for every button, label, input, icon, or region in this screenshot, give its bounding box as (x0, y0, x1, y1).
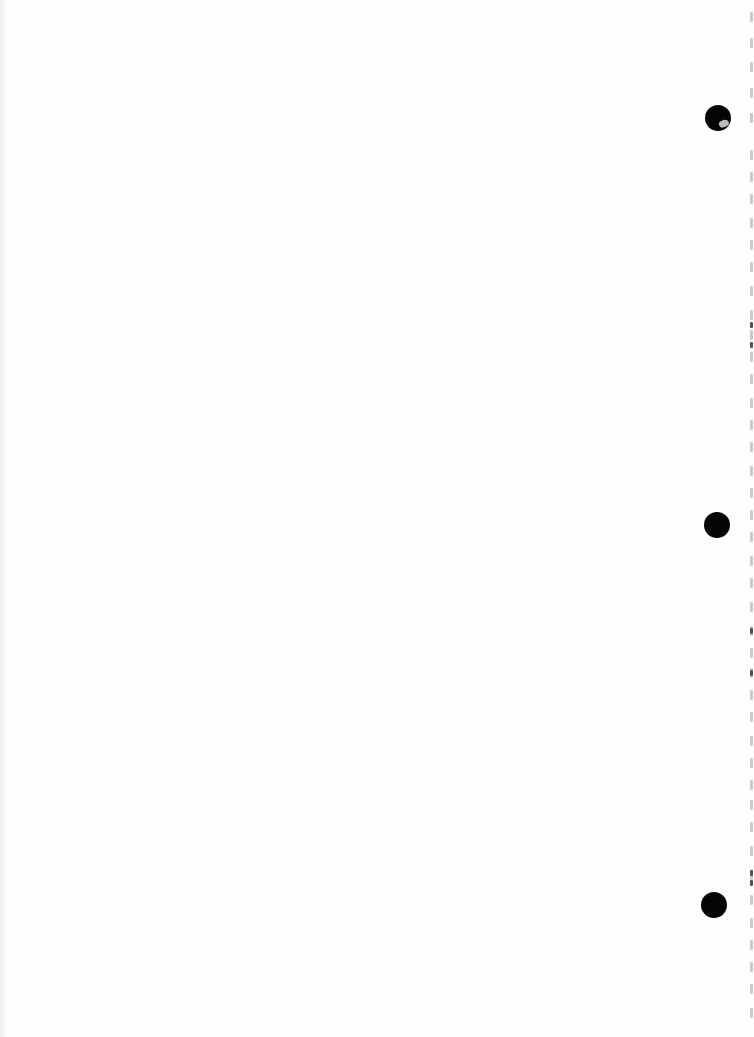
edge-mark (750, 984, 753, 994)
punch-hole (701, 892, 727, 918)
punch-hole (705, 105, 731, 131)
edge-mark (750, 556, 753, 566)
edge-mark-dark (750, 342, 753, 348)
edge-mark (750, 38, 753, 48)
edge-mark (750, 532, 753, 542)
edge-mark (750, 602, 753, 612)
edge-mark (750, 466, 753, 476)
edge-mark (750, 690, 753, 700)
edge-mark (750, 846, 753, 856)
edge-mark (750, 1008, 753, 1018)
edge-mark (750, 940, 753, 950)
edge-mark (750, 962, 753, 972)
edge-mark (750, 758, 753, 768)
edge-mark (750, 374, 753, 384)
edge-mark (750, 918, 753, 928)
edge-mark (750, 712, 753, 722)
edge-mark (750, 88, 753, 98)
right-edge-bleed-marks (746, 0, 754, 1037)
edge-mark (750, 286, 753, 296)
edge-mark (750, 736, 753, 746)
edge-mark (750, 330, 753, 340)
edge-mark (750, 442, 753, 452)
edge-mark (750, 822, 753, 832)
edge-mark-dark (750, 628, 753, 634)
edge-mark (750, 262, 753, 272)
scanned-page (0, 0, 754, 1037)
edge-mark (750, 420, 753, 430)
edge-mark (750, 780, 753, 790)
edge-mark (750, 113, 753, 123)
edge-mark (750, 150, 753, 160)
edge-mark-dark (750, 322, 753, 328)
edge-mark-dark (750, 870, 753, 876)
edge-mark-dark (750, 670, 753, 676)
edge-mark (750, 510, 753, 520)
edge-mark (750, 218, 753, 228)
edge-mark (750, 648, 753, 658)
edge-mark (750, 398, 753, 408)
edge-mark (750, 352, 753, 362)
edge-mark (750, 172, 753, 182)
edge-mark (750, 310, 753, 320)
edge-mark (750, 800, 753, 810)
edge-mark (750, 194, 753, 204)
edge-mark (750, 12, 753, 22)
page-left-edge-shadow (0, 0, 8, 1037)
edge-mark (750, 62, 753, 72)
punch-hole (704, 512, 730, 538)
edge-mark (750, 578, 753, 588)
edge-mark (750, 895, 753, 905)
edge-mark-dark (750, 880, 753, 886)
edge-mark (750, 240, 753, 250)
edge-mark (750, 488, 753, 498)
